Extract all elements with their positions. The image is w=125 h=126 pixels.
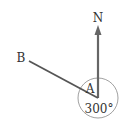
north-arrow-icon	[95, 25, 102, 35]
point-a-label: A	[85, 82, 95, 96]
angle-label: 300°	[85, 102, 114, 116]
point-b-label: B	[17, 51, 26, 65]
bearing-diagram: N B A 300°	[0, 0, 125, 126]
north-label: N	[93, 11, 104, 25]
